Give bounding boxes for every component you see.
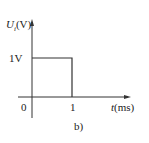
y-tick-1v: 1V [9,53,22,64]
x-tick-0: 0 [21,102,27,113]
pulse-waveform [32,58,72,97]
x-axis-arrow-icon [124,95,131,99]
x-axis-label: t(ms) [111,102,134,113]
y-axis-label: Ui(V) [6,19,31,33]
x-tick-1: 1 [70,102,76,113]
figure-caption: b) [74,121,83,132]
